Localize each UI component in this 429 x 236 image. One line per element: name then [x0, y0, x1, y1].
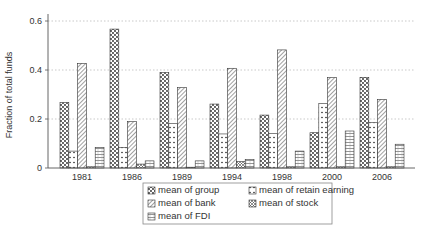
bar-mean-of-stock-1986: [136, 164, 145, 168]
bar-mean-of-fdi-1998: [295, 151, 304, 168]
bar-mean-of-retain-earning-1989: [169, 123, 178, 168]
legend-label: mean of bank: [158, 197, 216, 208]
bar-mean-of-group-1994: [210, 104, 219, 168]
x-tick-label: 1986: [122, 172, 142, 182]
bar-mean-of-group-1989: [160, 72, 169, 168]
bar-mean-of-fdi-2000: [345, 131, 354, 168]
legend-label: mean of stock: [259, 197, 318, 208]
bar-mean-of-group-1986: [110, 29, 119, 168]
y-tick-label: 0.6: [29, 16, 42, 26]
bar-mean-of-bank-1981: [78, 63, 87, 168]
bar-mean-of-retain-earning-1986: [119, 147, 128, 168]
bar-chart: 00.20.40.61981198619891994199820002006 F…: [0, 0, 429, 236]
y-axis-title: Fraction of total funds: [4, 51, 14, 138]
legend-swatch-mean-of-group: [148, 187, 155, 194]
bars: [60, 29, 404, 168]
bar-mean-of-bank-2000: [328, 78, 337, 168]
bar-mean-of-group-2006: [360, 77, 369, 168]
bar-mean-of-retain-earning-1998: [269, 133, 278, 168]
x-tick-label: 1994: [222, 172, 242, 182]
legend-label: mean of FDI: [158, 210, 210, 221]
bar-mean-of-stock-1994: [236, 162, 245, 168]
bar-mean-of-fdi-1989: [195, 161, 204, 168]
legend-swatch-mean-of-bank: [148, 200, 155, 207]
bar-mean-of-bank-1998: [278, 50, 287, 168]
bar-mean-of-retain-earning-2000: [319, 103, 328, 168]
bar-mean-of-retain-earning-2006: [369, 123, 378, 168]
x-tick-label: 1981: [72, 172, 92, 182]
y-tick-label: 0: [37, 163, 42, 173]
bar-mean-of-retain-earning-1994: [219, 134, 228, 168]
bar-mean-of-bank-2006: [378, 99, 387, 168]
bar-mean-of-fdi-2006: [395, 144, 404, 168]
bar-mean-of-fdi-1994: [245, 159, 254, 168]
bar-mean-of-bank-1986: [128, 122, 137, 168]
legend-label: mean of retain earning: [259, 184, 354, 195]
bar-mean-of-group-2000: [310, 133, 319, 168]
bar-mean-of-fdi-1986: [145, 161, 154, 168]
x-tick-label: 2000: [322, 172, 342, 182]
bar-mean-of-bank-1994: [228, 68, 237, 168]
legend-label: mean of group: [158, 184, 219, 195]
legend: mean of groupmean of retain earningmean …: [143, 183, 354, 224]
bar-mean-of-fdi-1981: [95, 147, 104, 168]
bar-mean-of-bank-1989: [178, 88, 187, 168]
y-tick-label: 0.2: [29, 114, 42, 124]
legend-swatch-mean-of-retain-earning: [249, 187, 256, 194]
y-tick-label: 0.4: [29, 65, 42, 75]
x-tick-label: 1989: [172, 172, 192, 182]
x-tick-label: 2006: [372, 172, 392, 182]
bar-mean-of-retain-earning-1981: [69, 151, 78, 168]
x-tick-label: 1998: [272, 172, 292, 182]
legend-swatch-mean-of-fdi: [148, 213, 155, 220]
bar-mean-of-group-1981: [60, 103, 69, 168]
bar-mean-of-group-1998: [260, 115, 269, 168]
legend-swatch-mean-of-stock: [249, 200, 256, 207]
